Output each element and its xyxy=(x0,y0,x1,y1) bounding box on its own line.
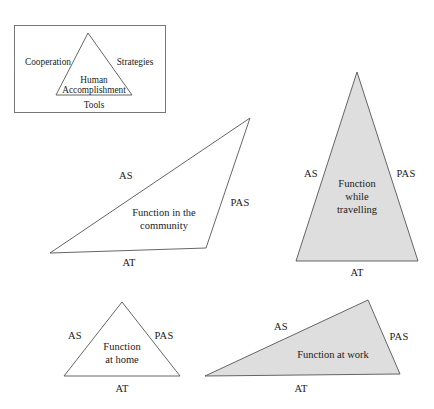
diagram-shapes-layer xyxy=(0,0,434,409)
triangle-travelling-shape xyxy=(296,72,418,261)
triangle-community-shape xyxy=(50,118,250,253)
triangle-function-diagram: Cooperation Strategies Human Accomplishm… xyxy=(0,0,434,409)
triangle-work-shape xyxy=(205,300,400,376)
triangle-home-shape xyxy=(64,302,180,376)
